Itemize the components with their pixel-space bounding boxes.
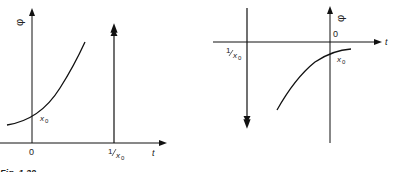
left-curve: [7, 42, 85, 125]
left-x0-sub: 0: [45, 118, 49, 124]
left-panel: φ 0 t x 0 1 x 0: [0, 12, 163, 161]
left-phi-label: φ: [13, 19, 25, 26]
right-x0-sub: 0: [342, 59, 346, 65]
left-origin-label: 0: [29, 147, 34, 157]
right-phi-label: φ: [334, 15, 346, 22]
right-panel: φ 0 t x 0 1 x 0: [213, 8, 388, 143]
right-origin-label: 0: [333, 29, 338, 39]
right-t-label: t: [385, 37, 388, 47]
right-impulse-sub: 0: [238, 55, 242, 61]
left-t-label: t: [152, 148, 155, 158]
figure-caption: Fig. 1.20: [0, 168, 36, 172]
left-impulse-second-arrowhead-icon: [111, 29, 118, 36]
right-impulse-second-arrowhead-icon: [244, 116, 251, 123]
left-impulse-sub: 0: [121, 155, 125, 161]
left-impulse-num: 1: [108, 147, 113, 156]
figure-canvas: φ 0 t x 0 1 x 0 Fig. 1.20 φ 0 t x 0 1 x …: [0, 0, 393, 172]
